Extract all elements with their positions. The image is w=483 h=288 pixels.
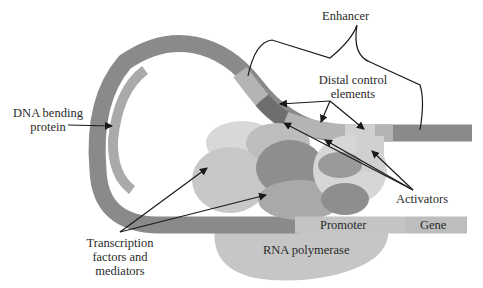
dna-bending-protein-label: DNA bending protein <box>10 106 86 134</box>
protein-complex <box>192 121 387 220</box>
enhancer-label: Enhancer <box>322 9 369 23</box>
activators-label: Activators <box>396 192 448 206</box>
distal-control-elements-line2: elements <box>298 87 408 101</box>
enhancer-looping-diagram: Enhancer Distal control elements DNA ben… <box>0 0 483 288</box>
rna-polymerase-label: RNA polymerase <box>263 243 349 257</box>
transcription-factors-line2: factors and <box>70 250 170 264</box>
distal-control-elements-line1: Distal control <box>298 73 408 87</box>
dna-bending-protein-line2: protein <box>10 120 86 134</box>
gene-label: Gene <box>420 218 446 232</box>
transcription-factors-line1: Transcription <box>70 236 170 250</box>
distal-control-elements-label: Distal control elements <box>298 73 408 101</box>
transcription-factors-line3: mediators <box>70 264 170 278</box>
dna-bending-protein-line1: DNA bending <box>10 106 86 120</box>
transcription-factors-label: Transcription factors and mediators <box>70 236 170 278</box>
promoter-label: Promoter <box>320 218 367 232</box>
